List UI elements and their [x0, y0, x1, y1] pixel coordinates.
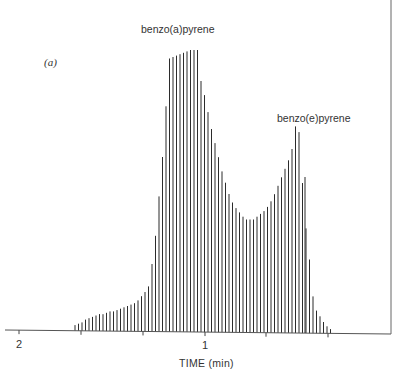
panel-label: (a) — [44, 56, 57, 68]
chromatogram-plot — [0, 0, 409, 378]
x-axis-title: TIME (min) — [179, 357, 234, 369]
x-tick-label-1: 1 — [202, 339, 208, 351]
peak-label-benzo-e-pyrene: benzo(e)pyrene — [277, 112, 351, 124]
x-tick-label-2: 2 — [16, 338, 22, 350]
chromatogram-bars — [75, 50, 331, 333]
peak-label-benzo-a-pyrene: benzo(a)pyrene — [141, 23, 215, 35]
